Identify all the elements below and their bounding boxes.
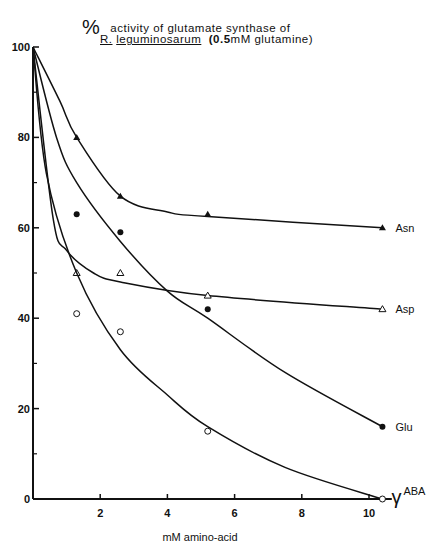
data-point-open-circle (117, 329, 123, 335)
series-label-gaba-gamma: γ (391, 486, 401, 508)
curve-asp (33, 47, 382, 309)
y-tick-label: 80 (18, 131, 30, 143)
x-tick-label: 4 (164, 507, 171, 519)
curve-glu (33, 47, 382, 427)
x-tick-label: 8 (299, 507, 305, 519)
series-label-gaba: ABA (403, 485, 426, 497)
y-tick-label: 60 (18, 222, 30, 234)
x-axis-label: mM amino-acid (162, 531, 237, 543)
data-point-open-circle (379, 496, 385, 502)
line-chart: 020406080100246810mM amino-acidAsnAspGlu… (0, 0, 441, 552)
y-tick-label: 100 (12, 41, 30, 53)
x-tick-label: 10 (363, 507, 375, 519)
data-point-open-circle (205, 428, 211, 434)
data-point-filled-triangle (204, 211, 211, 217)
series-label-asp: Asp (395, 303, 414, 315)
series-label-asn: Asn (395, 222, 414, 234)
y-tick-label: 20 (18, 403, 30, 415)
data-point-filled-circle (74, 211, 80, 217)
data-point-filled-circle (205, 306, 211, 312)
x-tick-label: 6 (232, 507, 238, 519)
y-tick-label: 0 (24, 493, 30, 505)
data-point-open-triangle (117, 270, 124, 276)
curve-asn (33, 47, 382, 228)
series-label-glu: Glu (395, 421, 412, 433)
y-tick-label: 40 (18, 312, 30, 324)
data-point-filled-circle (379, 424, 385, 430)
data-point-open-circle (74, 311, 80, 317)
x-tick-label: 2 (97, 507, 103, 519)
data-point-filled-circle (117, 229, 123, 235)
